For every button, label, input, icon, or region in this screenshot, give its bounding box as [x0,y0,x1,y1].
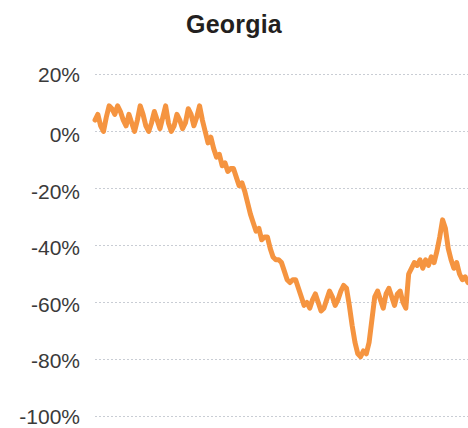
data-series-line [95,106,468,357]
